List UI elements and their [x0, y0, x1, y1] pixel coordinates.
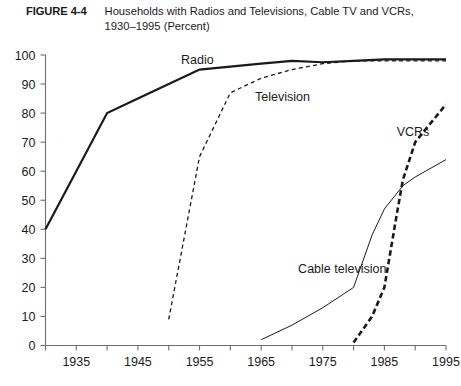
- series-line-cable-television: [261, 160, 446, 340]
- x-tick-label: 1965: [247, 355, 275, 369]
- y-tick-label: 60: [22, 165, 36, 179]
- series-label-television: Television: [255, 90, 310, 104]
- figure-container: FIGURE 4-4 Households with Radios and Te…: [0, 0, 461, 386]
- y-tick-label: 20: [22, 281, 36, 295]
- chart-axes: [46, 55, 447, 346]
- series-label-radio: Radio: [181, 53, 214, 67]
- series-label-cable-television: Cable television: [298, 262, 386, 276]
- x-tick-label: 1945: [124, 355, 152, 369]
- chart-series: [46, 59, 447, 342]
- x-tick-label: 1995: [432, 355, 460, 369]
- y-tick-label: 10: [22, 310, 36, 324]
- x-axis-ticks: 1935194519551965197519851995: [46, 346, 460, 369]
- y-tick-label: 100: [15, 49, 36, 63]
- y-axis-ticks: 0102030405060708090100: [15, 49, 46, 354]
- series-line-vcrs: [354, 104, 446, 342]
- x-tick-label: 1975: [309, 355, 337, 369]
- y-tick-label: 50: [22, 194, 36, 208]
- x-tick-label: 1955: [186, 355, 214, 369]
- y-tick-label: 80: [22, 107, 36, 121]
- y-tick-label: 30: [22, 252, 36, 266]
- line-chart: 0102030405060708090100 19351945195519651…: [0, 0, 461, 386]
- x-tick-label: 1935: [62, 355, 90, 369]
- y-tick-label: 0: [29, 339, 36, 353]
- y-tick-label: 90: [22, 78, 36, 92]
- x-tick-label: 1985: [370, 355, 398, 369]
- y-tick-label: 70: [22, 136, 36, 150]
- y-tick-label: 40: [22, 223, 36, 237]
- series-label-vcrs: VCRs: [397, 125, 430, 139]
